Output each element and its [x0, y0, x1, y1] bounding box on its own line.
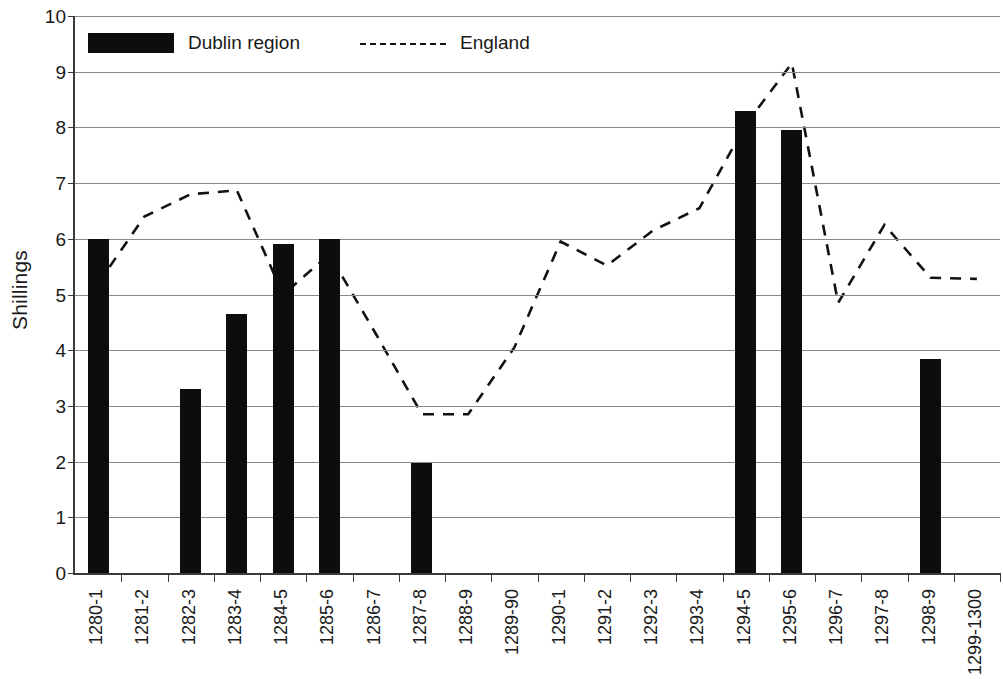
x-axis-tick-label: 1286-7 [365, 585, 383, 677]
x-axis-tick-label: 1294-5 [735, 585, 753, 677]
x-axis-tick-label-text: 1297-8 [873, 589, 891, 645]
x-axis-tick-label-text: 1284-5 [272, 589, 290, 645]
x-axis-tick-mark [815, 573, 816, 582]
y-axis-tick-mark [68, 295, 75, 296]
x-axis-tick-mark [491, 573, 492, 582]
x-axis-tick-mark [399, 573, 400, 582]
x-axis-tick-label: 1283-4 [226, 585, 244, 677]
y-axis-tick-label: 10 [32, 7, 66, 26]
gridline [75, 183, 1000, 184]
y-axis-tick-mark [68, 462, 75, 463]
gridline [75, 462, 1000, 463]
x-axis-tick-label-text: 1293-4 [688, 589, 706, 645]
x-axis-tick-mark [676, 573, 677, 582]
gridline [75, 406, 1000, 407]
y-axis-tick-mark [68, 16, 75, 17]
bar [88, 239, 109, 573]
x-axis-tick-mark [769, 573, 770, 582]
y-axis-tick-label: 8 [32, 118, 66, 137]
bar [781, 130, 802, 573]
y-axis-tick-label: 0 [32, 564, 66, 583]
y-axis-tick-label: 6 [32, 229, 66, 248]
y-axis-tick-label: 9 [32, 62, 66, 81]
x-axis-tick-label-text: 1287-8 [411, 589, 429, 645]
y-axis-tick-label: 2 [32, 452, 66, 471]
y-axis-tick-label: 4 [32, 341, 66, 360]
y-axis-tick-mark [68, 239, 75, 240]
x-axis-tick-label-text: 1295-6 [781, 589, 799, 645]
bar [273, 244, 294, 573]
legend-item-dublin-region: Dublin region [88, 32, 300, 54]
x-axis-tick-mark [538, 573, 539, 582]
gridline [75, 517, 1000, 518]
x-axis-tick-mark [168, 573, 169, 582]
x-axis-tick-labels: 1280-11281-21282-31283-41284-51285-61286… [73, 585, 998, 679]
x-axis-tick-label: 1297-8 [873, 585, 891, 677]
x-axis-tick-label: 1284-5 [272, 585, 290, 677]
x-axis-tick-label-text: 1296-7 [827, 589, 845, 645]
chart-container: Shillings 012345678910 1280-11281-21282-… [0, 0, 1003, 679]
legend-label-dublin-region: Dublin region [188, 32, 300, 54]
x-axis-tick-label-text: 1292-3 [642, 589, 660, 645]
x-axis-tick-label: 1291-2 [596, 585, 614, 677]
y-axis-tick-label: 5 [32, 285, 66, 304]
x-axis-tick-label: 1290-1 [550, 585, 568, 677]
x-axis-tick-mark [214, 573, 215, 582]
legend-bar-swatch-icon [88, 33, 174, 53]
x-axis-tick-label-text: 1286-7 [365, 589, 383, 645]
x-axis-tick-label-text: 1285-6 [318, 589, 336, 645]
x-axis-tick-label-text: 1281-2 [133, 589, 151, 645]
legend-dashed-line-swatch-icon [360, 33, 446, 53]
gridline [75, 72, 1000, 73]
x-axis-tick-mark [353, 573, 354, 582]
x-axis-tick-mark [1000, 573, 1001, 582]
y-axis-tick-mark [68, 573, 75, 574]
bar [319, 239, 340, 573]
x-axis-tick-label-text: 1282-3 [180, 589, 198, 645]
x-axis-tick-mark [445, 573, 446, 582]
y-axis-tick-label: 7 [32, 174, 66, 193]
x-axis-tick-label: 1289-90 [503, 585, 521, 677]
chart-legend: Dublin region England [88, 28, 530, 58]
x-axis-tick-label-text: 1280-1 [87, 589, 105, 645]
x-axis-tick-label: 1280-1 [87, 585, 105, 677]
x-axis-tick-mark [861, 573, 862, 582]
x-axis-tick-mark [260, 573, 261, 582]
y-axis-tick-mark [68, 406, 75, 407]
x-axis-tick-label: 1296-7 [827, 585, 845, 677]
x-axis-tick-label: 1282-3 [180, 585, 198, 677]
gridline [75, 239, 1000, 240]
x-axis-tick-mark [630, 573, 631, 582]
x-axis-tick-label-text: 1283-4 [226, 589, 244, 645]
gridline [75, 127, 1000, 128]
plot-area [73, 16, 1000, 575]
x-axis-tick-label-text: 1299-1300 [966, 589, 984, 675]
y-axis-tick-label: 1 [32, 508, 66, 527]
x-axis-tick-label-text: 1290-1 [550, 589, 568, 645]
x-axis-tick-label-text: 1291-2 [596, 589, 614, 645]
x-axis-tick-label-text: 1288-9 [457, 589, 475, 645]
x-axis-tick-label: 1298-9 [920, 585, 938, 677]
bar [226, 314, 247, 573]
x-axis-tick-mark [121, 573, 122, 582]
y-axis-tick-label: 3 [32, 396, 66, 415]
x-axis-tick-mark [584, 573, 585, 582]
x-axis-tick-label-text: 1298-9 [920, 589, 938, 645]
x-axis-tick-label: 1292-3 [642, 585, 660, 677]
gridline [75, 350, 1000, 351]
y-axis-tick-labels: 012345678910 [0, 0, 66, 600]
x-axis-tick-label: 1288-9 [457, 585, 475, 677]
bar [411, 463, 432, 573]
x-axis-tick-label-text: 1289-90 [503, 589, 521, 655]
x-axis-tick-mark [306, 573, 307, 582]
bar [735, 111, 756, 573]
y-axis-tick-mark [68, 517, 75, 518]
bar [180, 389, 201, 573]
x-axis-tick-mark [954, 573, 955, 582]
y-axis-tick-mark [68, 127, 75, 128]
x-axis-tick-label: 1299-1300 [966, 585, 984, 677]
x-axis-tick-label-text: 1294-5 [735, 589, 753, 645]
y-axis-tick-mark [68, 350, 75, 351]
x-axis-tick-mark [908, 573, 909, 582]
y-axis-tick-mark [68, 183, 75, 184]
